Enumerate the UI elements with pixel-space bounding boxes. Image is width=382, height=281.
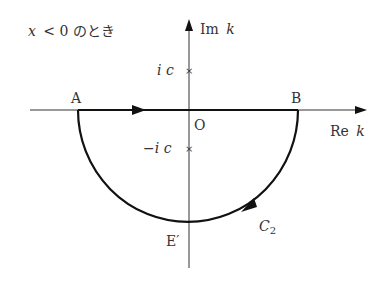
- arc-direction-arrow-icon: [241, 198, 257, 212]
- real-axis-arrow-icon: [355, 106, 367, 114]
- pole-lower-label: −i c: [143, 140, 172, 156]
- contour-diagram: × × x < 0 のとき Im k Re k O i c −i c A B E…: [0, 0, 382, 281]
- point-b-label: B: [291, 90, 301, 106]
- pole-lower-marker-icon: ×: [185, 143, 193, 154]
- imaginary-axis-arrow-icon: [185, 19, 193, 31]
- contour-label: C2: [259, 218, 276, 236]
- point-a-label: A: [70, 90, 82, 106]
- condition-title: x < 0 のとき: [28, 23, 115, 39]
- direction-arrow-icon: [132, 105, 146, 115]
- real-axis-label: Re k: [330, 123, 365, 139]
- imaginary-axis-label: Im k: [200, 21, 235, 37]
- pole-upper-marker-icon: ×: [185, 65, 193, 76]
- contour-arc-c2: [78, 110, 298, 222]
- pole-upper-label: i c: [157, 62, 174, 78]
- point-e-prime-label: E′: [166, 233, 179, 249]
- origin-label: O: [194, 117, 205, 133]
